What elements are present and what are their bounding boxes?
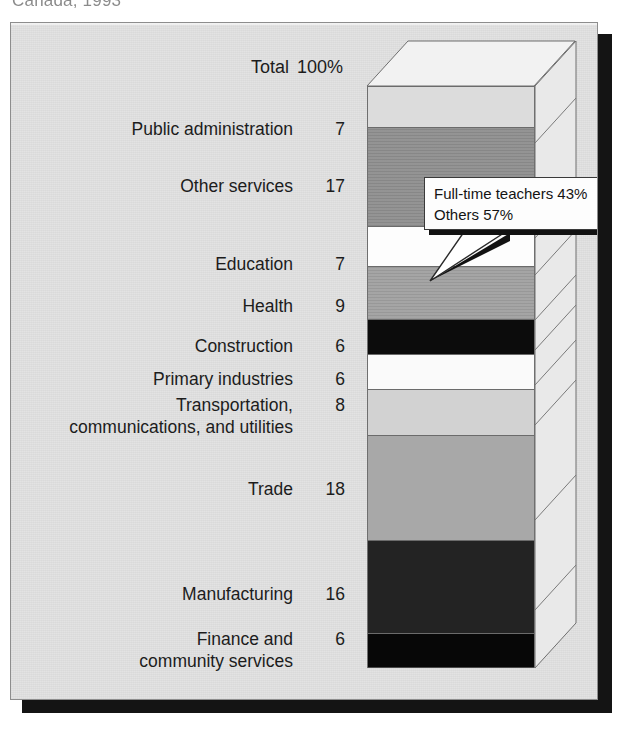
bar-segment (368, 540, 534, 633)
bar-segment (368, 633, 534, 668)
category-value: 6 (303, 335, 345, 357)
category-value: 6 (303, 628, 345, 650)
category-label: Primary industries (153, 368, 293, 390)
bar-segment (368, 435, 534, 540)
category-label: Transportation, communications, and util… (69, 394, 293, 438)
bar-segment (368, 266, 534, 318)
callout-line-1: Full-time teachers 43% (434, 183, 598, 204)
callout-line-2: Others 57% (434, 204, 598, 225)
bar-segment (368, 319, 534, 354)
category-value: 16 (303, 583, 345, 605)
bar-segment (368, 354, 534, 389)
bar-segment (368, 86, 534, 127)
category-value: 18 (303, 478, 345, 500)
category-label: Finance and community services (139, 628, 293, 672)
figure-title-clipped: Canada, 1993 (12, 0, 121, 11)
bar-segment-stack (367, 86, 535, 668)
category-value: 6 (303, 368, 345, 390)
category-label: Manufacturing (182, 583, 293, 605)
segment-texture (368, 267, 534, 318)
category-value: 7 (303, 118, 345, 140)
category-label: Trade (248, 478, 293, 500)
callout-box: Full-time teachers 43% Others 57% (424, 177, 598, 230)
stacked-bar-3d (361, 23, 598, 700)
category-label: Public administration (132, 118, 293, 140)
category-label: Health (242, 295, 293, 317)
category-label-column: Public administration7Other services17Ed… (11, 23, 351, 700)
category-label: Construction (195, 335, 293, 357)
category-label: Education (215, 253, 293, 275)
bar-segment (368, 389, 534, 436)
chart-panel: Total 100% Public administration7Other s… (10, 22, 598, 700)
category-value: 17 (303, 175, 345, 197)
category-value: 7 (303, 253, 345, 275)
category-value: 8 (303, 394, 345, 416)
category-label: Other services (180, 175, 293, 197)
category-value: 9 (303, 295, 345, 317)
figure-root: Canada, 1993 Total 100% Public administr… (0, 0, 636, 742)
